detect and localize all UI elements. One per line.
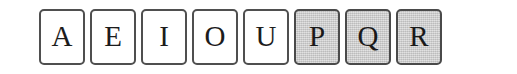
letter-tile-q[interactable]: Q bbox=[345, 9, 391, 65]
letter-tile-o[interactable]: O bbox=[192, 9, 238, 65]
letter-tile-r[interactable]: R bbox=[396, 9, 442, 65]
letter-tile-label: O bbox=[205, 22, 226, 51]
letter-tile-label: P bbox=[309, 22, 325, 51]
letter-tile-label: A bbox=[52, 22, 73, 51]
letter-tile-label: I bbox=[159, 22, 169, 51]
letter-tile-a[interactable]: A bbox=[39, 9, 85, 65]
letter-tile-u[interactable]: U bbox=[243, 9, 289, 65]
letter-tile-e[interactable]: E bbox=[90, 9, 136, 65]
letter-tile-p[interactable]: P bbox=[294, 9, 340, 65]
letter-tile-label: R bbox=[409, 22, 428, 51]
letter-tile-label: Q bbox=[358, 22, 379, 51]
letter-tile-i[interactable]: I bbox=[141, 9, 187, 65]
letter-tile-label: U bbox=[256, 22, 277, 51]
letter-tiles-row: A E I O U P Q R bbox=[0, 0, 517, 74]
letter-tile-label: E bbox=[104, 22, 122, 51]
